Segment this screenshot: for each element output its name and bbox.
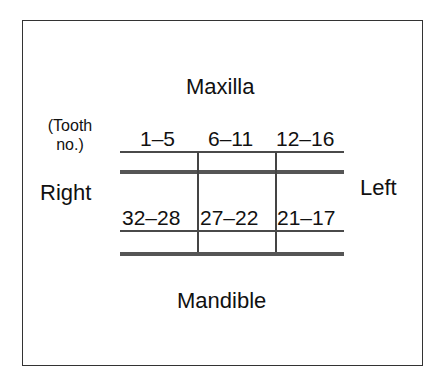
tooth-note-line1: (Tooth [38, 116, 102, 135]
tooth-note-line2: no.) [38, 135, 102, 154]
mandible-range-left: 21–17 [277, 207, 335, 228]
maxilla-lower-line [120, 170, 344, 174]
mandible-range-right: 32–28 [122, 207, 180, 228]
mandible-label: Mandible [177, 290, 266, 312]
mandible-upper-line [120, 230, 344, 232]
mandible-lower-line [120, 252, 344, 256]
right-side-label: Right [40, 182, 91, 204]
maxilla-label: Maxilla [186, 76, 254, 98]
maxilla-range-right: 1–5 [140, 128, 175, 149]
left-side-label: Left [360, 177, 397, 199]
maxilla-range-center: 6–11 [208, 128, 253, 149]
maxilla-range-left: 12–16 [276, 128, 334, 149]
mandible-range-center: 27–22 [200, 207, 258, 228]
maxilla-upper-line [120, 151, 344, 153]
divider-center-left [275, 152, 277, 255]
divider-right-center [197, 152, 199, 255]
tooth-number-note: (Tooth no.) [38, 116, 102, 154]
